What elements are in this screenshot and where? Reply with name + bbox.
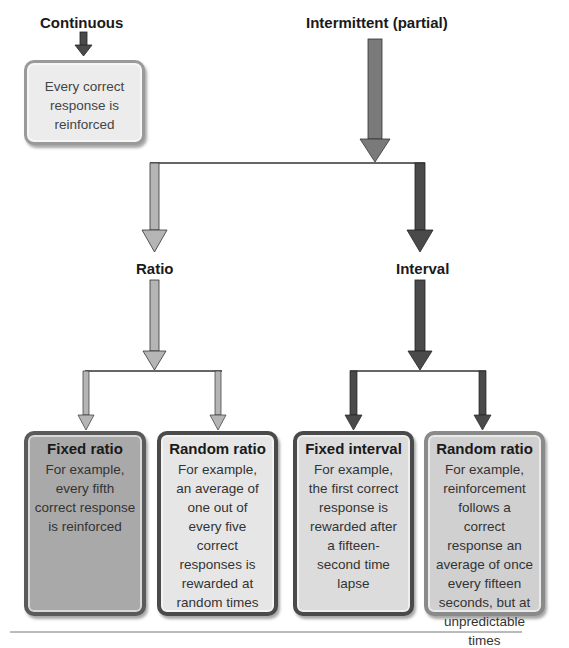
fixed-interval-box: Fixed interval For example, the first co… — [293, 431, 414, 616]
continuous-box: Every correct response is reinforced — [24, 60, 145, 145]
intermittent-arrow-icon — [360, 39, 390, 162]
random-ratio-description: For example, an average of one out of ev… — [161, 460, 274, 612]
random-ratio-arrow-icon — [210, 371, 226, 430]
continuous-arrow-icon — [75, 32, 92, 56]
continuous-label: Continuous — [40, 14, 123, 31]
fixed-ratio-box: Fixed ratio For example, every fifth cor… — [24, 431, 146, 616]
ratio-down-arrow-icon — [143, 280, 166, 370]
fixed-ratio-title: Fixed ratio — [28, 439, 142, 459]
interval-down-arrow-icon — [408, 280, 432, 370]
fixed-interval-arrow-icon — [345, 371, 362, 430]
random-interval-box: Random ratio For example, reinforcement … — [424, 431, 545, 616]
random-interval-arrow-icon — [474, 371, 491, 430]
interval-arrow-icon — [407, 163, 433, 252]
random-ratio-box: Random ratio For example, an average of … — [157, 431, 278, 616]
random-interval-title: Random ratio — [428, 439, 541, 459]
fixed-interval-description: For example, the first correct response … — [297, 460, 410, 593]
intermittent-label: Intermittent (partial) — [306, 14, 448, 31]
fixed-ratio-arrow-icon — [78, 371, 94, 430]
random-ratio-title: Random ratio — [161, 439, 274, 459]
fixed-ratio-description: For example, every fifth correct respons… — [28, 460, 142, 536]
ratio-label: Ratio — [136, 260, 174, 277]
continuous-description: Every correct response is reinforced — [27, 77, 142, 134]
random-interval-description: For example, reinforcement follows a cor… — [428, 460, 541, 648]
fixed-interval-title: Fixed interval — [297, 439, 410, 459]
interval-label: Interval — [396, 260, 449, 277]
ratio-arrow-icon — [142, 163, 167, 252]
